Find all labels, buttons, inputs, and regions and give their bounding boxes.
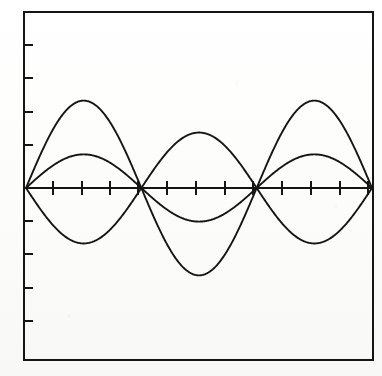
plot-canvas <box>0 0 382 376</box>
caption-band <box>0 360 382 376</box>
figure-container <box>0 0 382 376</box>
plot-frame <box>24 12 373 360</box>
